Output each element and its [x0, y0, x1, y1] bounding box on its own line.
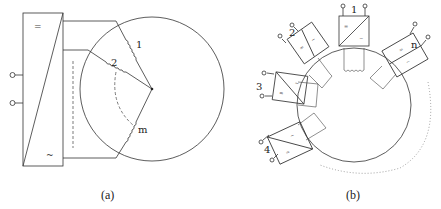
phase-2-wire — [63, 50, 106, 62]
winding-1-coil — [126, 40, 136, 60]
dc-symbol: = — [34, 22, 42, 32]
converter-diagonal — [23, 13, 63, 166]
figure-a: = ~ 1 2 m (a) — [10, 13, 224, 202]
svg-text:=: = — [344, 23, 348, 29]
phase-1-wire — [63, 21, 126, 40]
svg-text:~: ~ — [289, 132, 295, 139]
svg-text:=: = — [284, 148, 290, 155]
svg-text:~: ~ — [404, 58, 411, 65]
module-label-3: 3 — [256, 81, 262, 92]
caption-b: (b) — [346, 188, 360, 202]
module-label-4: 4 — [264, 144, 270, 155]
svg-text:=: = — [397, 46, 404, 53]
caption-a: (a) — [101, 188, 114, 202]
phase-m-wire — [63, 142, 126, 158]
svg-text:=: = — [279, 90, 284, 97]
svg-text:~: ~ — [294, 80, 299, 87]
svg-text:~: ~ — [310, 36, 317, 43]
module-3-coil — [298, 82, 318, 107]
svg-text:=: = — [298, 44, 305, 51]
module-label-1: 1 — [351, 4, 357, 15]
ac-symbol: ~ — [46, 150, 54, 160]
winding-m-coil — [126, 122, 136, 142]
diagram-canvas: = ~ 1 2 m (a) — [0, 0, 441, 209]
winding-label-2: 2 — [111, 57, 117, 68]
input-terminal-pos — [10, 73, 15, 78]
module-label-n: n — [411, 39, 418, 50]
module-1-coil — [344, 48, 364, 72]
winding-label-1: 1 — [136, 39, 142, 50]
neutral-point — [151, 88, 154, 91]
module-3: ~ = — [272, 72, 308, 104]
svg-text:~: ~ — [359, 35, 363, 41]
stator-ring — [297, 48, 411, 162]
module-n: = ~ — [382, 33, 428, 77]
winding-label-m: m — [138, 124, 148, 135]
input-terminal-neg — [10, 101, 15, 106]
figure-b: = ~ 1 = ~ 2 = ~ n — [256, 4, 431, 202]
module-label-2: 2 — [289, 27, 295, 38]
winding-ellipsis-arc — [115, 72, 133, 125]
module-1: = ~ 1 — [339, 4, 369, 46]
